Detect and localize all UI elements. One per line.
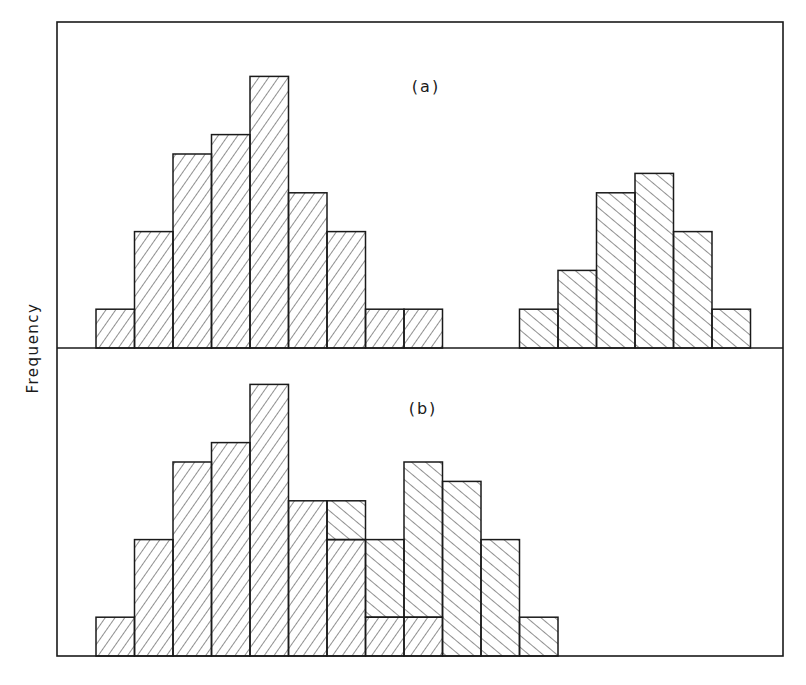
histogram-figure: [0, 0, 806, 685]
bar-a-series2-bin15: [674, 232, 713, 348]
bar-a-series2-bin16: [712, 309, 751, 348]
panel-b-label: (b): [409, 399, 438, 418]
bar-b-series1-bin8: [404, 617, 443, 656]
bar-a-series2-bin13: [597, 193, 636, 348]
bar-a-series1-bin8: [404, 309, 443, 348]
bar-a-series1-bin0: [96, 309, 135, 348]
panel-b-bars: [96, 384, 558, 656]
bar-b-series1-bin5: [289, 501, 328, 656]
bar-b-series2-bin8: [404, 462, 443, 617]
bar-b-series1-bin1: [135, 540, 174, 656]
bar-b-series2-bin7: [366, 540, 405, 618]
bar-a-series1-bin1: [135, 232, 174, 348]
bar-b-series2-bin11: [520, 617, 559, 656]
bar-b-series1-bin2: [173, 462, 212, 656]
bar-b-series1-bin3: [212, 443, 251, 656]
bar-b-series1-bin6: [327, 540, 366, 656]
bar-a-series1-bin7: [366, 309, 405, 348]
panel-a-bars: [96, 76, 751, 348]
y-axis-label: Frequency: [24, 303, 42, 394]
bar-b-series2-bin6: [327, 501, 366, 540]
bar-a-series2-bin14: [635, 173, 674, 348]
bar-a-series1-bin6: [327, 232, 366, 348]
bar-b-series1-bin0: [96, 617, 135, 656]
bar-b-series2-bin10: [481, 540, 520, 656]
bar-a-series1-bin2: [173, 154, 212, 348]
bar-a-series1-bin4: [250, 76, 289, 348]
panel-a-label: (a): [412, 77, 440, 96]
bar-a-series1-bin5: [289, 193, 328, 348]
bar-a-series2-bin12: [558, 270, 597, 348]
bar-b-series2-bin9: [443, 481, 482, 656]
bar-a-series2-bin11: [520, 309, 559, 348]
bar-a-series1-bin3: [212, 135, 251, 348]
bar-b-series1-bin7: [366, 617, 405, 656]
bar-b-series1-bin4: [250, 384, 289, 656]
